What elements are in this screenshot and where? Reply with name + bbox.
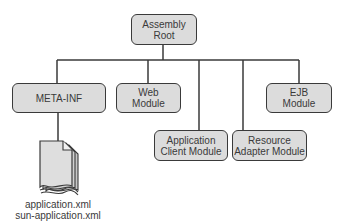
node-application-client-module: Application Client Module — [154, 130, 228, 161]
node-label-line1: Application — [167, 135, 216, 146]
node-label-line2: Root — [153, 30, 174, 41]
file-label-application-xml: application.xml — [0, 199, 116, 210]
node-label-line1: Web — [138, 87, 158, 98]
node-label-line2: Module — [132, 98, 165, 109]
node-label-line1: Resource — [248, 135, 291, 146]
node-web-module: Web Module — [116, 83, 181, 113]
file-label-sun-application-xml: sun-application.xml — [0, 210, 116, 221]
node-label-line2: Adapter Module — [234, 146, 305, 157]
node-resource-adapter-module: Resource Adapter Module — [232, 130, 307, 161]
node-label-line2: Module — [283, 98, 316, 109]
node-label-line2: Client Module — [160, 146, 221, 157]
node-ejb-module: EJB Module — [266, 83, 332, 113]
node-assembly-root: Assembly Root — [131, 14, 197, 45]
node-label: META-INF — [36, 93, 82, 104]
node-label-line1: EJB — [290, 87, 308, 98]
xml-document-icon — [40, 141, 78, 195]
diagram-canvas: Assembly Root META-INF Web Module Applic… — [0, 0, 345, 223]
node-meta-inf: META-INF — [12, 83, 106, 113]
node-label-line1: Assembly — [142, 19, 185, 30]
